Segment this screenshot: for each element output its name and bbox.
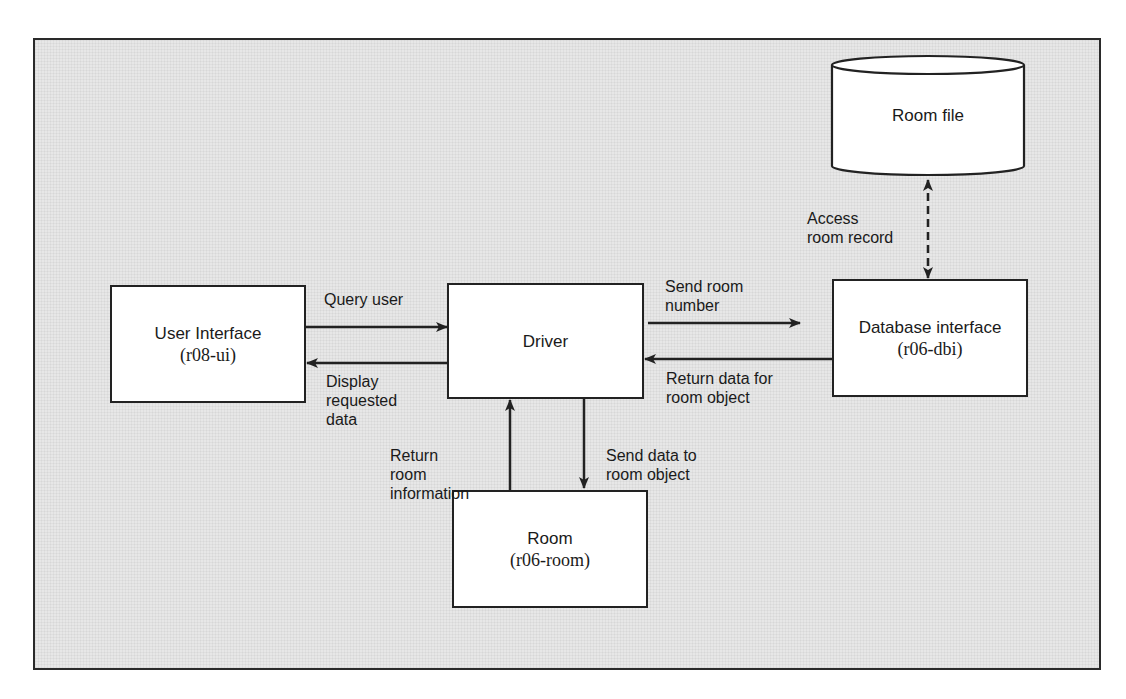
- label-return-data: Return data for room object: [666, 369, 773, 407]
- room-file-label: Room file: [833, 106, 1023, 126]
- node-title: User Interface: [155, 323, 262, 344]
- node-module: (r06-room): [510, 549, 590, 571]
- node-room: Room (r06-room): [452, 490, 648, 608]
- label-display-requested: Display requested data: [326, 372, 397, 429]
- label-query-user: Query user: [324, 290, 403, 309]
- node-title: Driver: [523, 331, 568, 352]
- node-user-interface: User Interface (r08-ui): [110, 285, 306, 403]
- node-title: Database interface: [859, 317, 1002, 338]
- node-driver: Driver: [447, 283, 644, 399]
- label-send-data-room: Send data to room object: [606, 446, 697, 484]
- node-title: Room: [527, 528, 572, 549]
- label-access-room-record: Access room record: [807, 209, 893, 247]
- label-return-room-info: Return room information: [390, 446, 469, 503]
- node-module: (r08-ui): [180, 344, 236, 366]
- node-module: (r06-dbi): [898, 338, 963, 360]
- node-database-interface: Database interface (r06-dbi): [832, 279, 1028, 397]
- label-send-room-number: Send room number: [665, 277, 743, 315]
